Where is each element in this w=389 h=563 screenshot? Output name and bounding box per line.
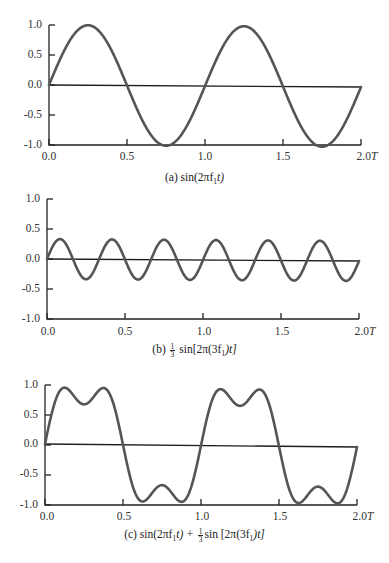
xtick-label: 1.5 bbox=[273, 510, 287, 522]
xtick-label: 1.0 bbox=[195, 510, 209, 522]
caption-c: (c) sin(2πf1t) + 13sin [2π(3f1)t] bbox=[0, 528, 389, 543]
ytick-label: 0.0 bbox=[4, 437, 38, 449]
xtick-label: 0.5 bbox=[117, 510, 131, 522]
xtick-label: 0.0 bbox=[40, 510, 54, 522]
ytick-label: -0.5 bbox=[4, 467, 38, 479]
plot-area-c bbox=[0, 0, 389, 563]
chart-panel-c: 1.0 0.5 0.0 -0.5 -1.0 0.0 0.5 1.0 1.5 2.… bbox=[0, 0, 389, 563]
ytick-label: 0.5 bbox=[4, 408, 38, 420]
ytick-label: -1.0 bbox=[4, 498, 38, 510]
fraction-one-third: 13 bbox=[198, 528, 204, 543]
ytick-label: 1.0 bbox=[4, 378, 38, 390]
curve-c bbox=[45, 388, 357, 504]
xtick-label-end: 2.0T bbox=[353, 510, 374, 522]
